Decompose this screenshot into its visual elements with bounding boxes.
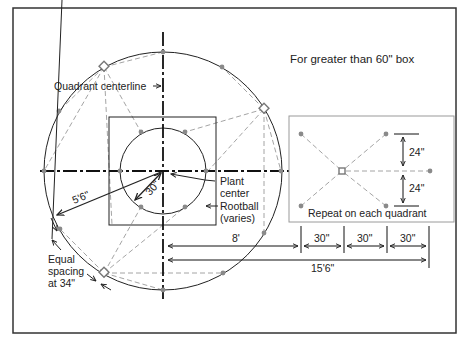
dimension-lines [168,226,429,268]
dim-spacing-3-label: 30" [400,232,416,244]
rootball-label-2: (varies) [220,212,255,224]
equal-spacing-arrows [51,0,111,290]
dim-8ft-label: 8' [232,232,240,244]
dim-total-label: 15'6" [311,262,335,274]
equal-spacing-label-1: Equal [48,253,75,265]
diagram-canvas: For greater than 60" box Quadrant center… [0,0,465,342]
plant-center-label-2: center [220,187,250,199]
offset-bottom-label: 24" [409,182,425,194]
dim-spacing-2-label: 30" [357,232,373,244]
offset-top-label: 24" [409,146,425,158]
plant-center-label-1: Plant [220,175,244,187]
plant-center-pointer [171,174,215,181]
quadrant-markers [99,61,269,277]
diagram-title: For greater than 60" box [290,53,415,65]
dim-spacing-1-label: 30" [314,232,330,244]
equal-spacing-label-2: spacing [48,265,84,277]
outer-radius-label: 5'6" [70,188,91,206]
detail-marker [339,168,345,174]
inner-radius-label: 30" [143,178,162,198]
quadrant-centerline-label: Quadrant centerline [54,80,146,92]
planting-layout-diagram: For greater than 60" box Quadrant center… [0,0,465,342]
equal-spacing-label-3: at 34" [48,277,75,289]
rootball-label-1: Rootball [220,200,259,212]
detail-caption: Repeat on each quadrant [308,207,427,219]
